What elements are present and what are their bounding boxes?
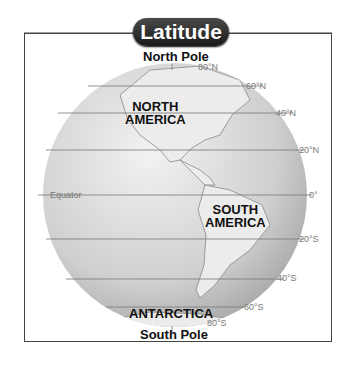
south-pole-label: South Pole: [140, 327, 208, 342]
lat-60n-label: 60°N: [246, 81, 266, 91]
south-america-label: SOUTH AMERICA: [205, 203, 266, 229]
lat-40n-label: 40°N: [276, 108, 296, 118]
lat-0-label: 0°: [309, 190, 318, 200]
antarctica-label: ANTARCTICA: [129, 307, 213, 320]
title-banner: Latitude: [133, 18, 229, 46]
equator-label: Equator: [50, 190, 82, 200]
lat-80n-label: 80°N: [198, 62, 218, 72]
lat-20s-label: 20°S: [299, 234, 319, 244]
south-america-line2: AMERICA: [205, 216, 266, 229]
lat-20n-label: 20°N: [299, 145, 319, 155]
lat-40s-label: 40°S: [277, 273, 297, 283]
north-america-line2: AMERICA: [125, 113, 186, 126]
lat-60s-label: 60°S: [244, 302, 264, 312]
north-america-label: NORTH AMERICA: [125, 100, 186, 126]
